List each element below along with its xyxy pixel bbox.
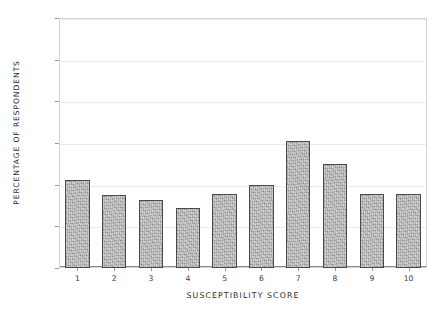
x-tick-mark [188,268,189,271]
x-axis-title: SUSCEPTIBILITY SCORE [59,291,427,300]
x-tick-label: 4 [176,274,200,283]
y-axis-title: PERCENTAGE OF RESPONDENTS [12,43,21,223]
bar[interactable] [102,195,126,268]
bar-slot [139,18,163,268]
x-tick-mark [151,268,152,271]
bar[interactable] [360,194,384,268]
x-tick-label: 6 [249,274,273,283]
bar-slot [176,18,200,268]
bar-slot [65,18,89,268]
y-tick-mark [55,268,59,269]
x-tick-label: 10 [397,274,421,283]
bar-series [59,18,427,268]
clipped-top-caption [0,0,441,1]
x-tick-mark [225,268,226,271]
bar-slot [323,18,347,268]
bar-slot [286,18,310,268]
x-tick-label: 1 [65,274,89,283]
chart-container: PERCENTAGE OF RESPONDENTS 0%5%10%15%20%2… [0,0,441,322]
x-tick-mark [261,268,262,271]
bar-slot [360,18,384,268]
x-tick-mark [114,268,115,271]
bar[interactable] [139,200,163,268]
bar[interactable] [249,185,273,268]
x-tick-mark [335,268,336,271]
bar-slot [396,18,420,268]
x-tick-mark [409,268,410,271]
x-tick-label: 5 [213,274,237,283]
x-tick-mark [77,268,78,271]
bar-slot [249,18,273,268]
x-tick-mark [298,268,299,271]
x-tick-label: 2 [102,274,126,283]
x-tick-label: 9 [360,274,384,283]
bar[interactable] [323,164,347,268]
bar[interactable] [286,141,310,269]
bar[interactable] [396,194,420,268]
x-tick-label: 7 [286,274,310,283]
bar[interactable] [65,180,89,268]
bar[interactable] [212,194,236,268]
bar[interactable] [176,208,200,268]
x-tick-label: 8 [323,274,347,283]
bar-slot [212,18,236,268]
x-tick-label: 3 [139,274,163,283]
x-tick-mark [372,268,373,271]
bar-slot [102,18,126,268]
